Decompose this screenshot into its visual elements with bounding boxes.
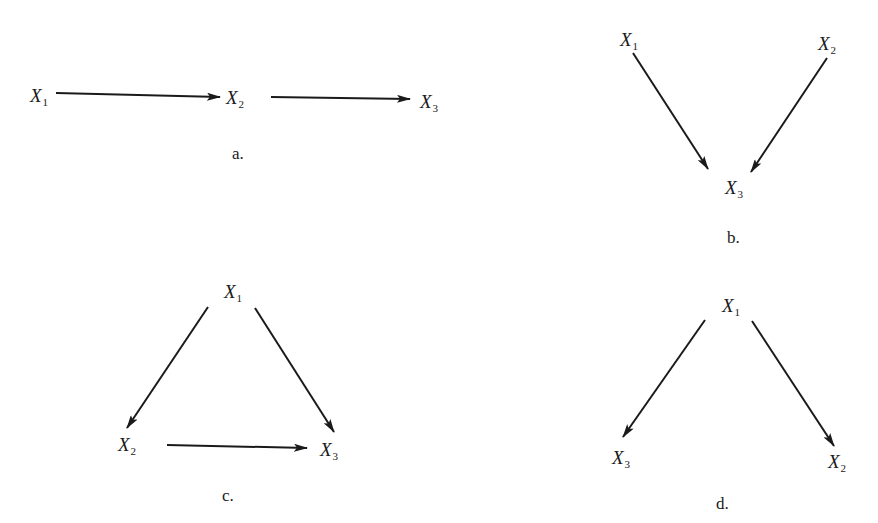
node-subscript: 1 [237,292,243,304]
edge-b-x1-to-x3 [633,53,708,169]
node-variable: X [818,33,830,54]
edge-a-x2-to-x3 [271,97,410,99]
edge-c-x1-to-x3 [255,308,334,432]
node-subscript: 1 [43,96,49,108]
caption-c: c. [222,487,234,504]
node-subscript: 3 [738,188,744,200]
node-subscript: 2 [239,98,245,110]
node-subscript: 1 [633,40,639,52]
node-variable: X [420,91,432,112]
node-c-x3: X3 [320,440,338,462]
node-b-x1: X1 [620,30,638,52]
diagram-canvas: X1 X2 X3 a. X1 X2 X3 b. X1 X2 X3 c. X1 X… [0,0,878,523]
node-subscript: 1 [735,306,741,318]
node-subscript: 2 [131,445,137,457]
node-subscript: 3 [625,458,631,470]
node-b-x2: X2 [818,34,836,56]
node-variable: X [118,434,130,455]
node-a-x1: X1 [30,86,48,108]
node-variable: X [30,85,42,106]
node-variable: X [620,29,632,50]
node-a-x3: X3 [420,92,438,114]
edge-a-x1-to-x2 [56,93,220,97]
node-b-x3: X3 [725,178,743,200]
edge-c-x1-to-x2 [127,307,208,428]
node-variable: X [725,177,737,198]
node-c-x2: X2 [118,435,136,457]
node-c-x1: X1 [224,282,242,304]
node-variable: X [320,439,332,460]
node-variable: X [828,451,840,472]
node-subscript: 2 [831,44,837,56]
node-subscript: 2 [841,462,847,474]
node-d-x3: X3 [612,448,630,470]
caption-b: b. [727,229,740,246]
node-d-x1: X1 [722,296,740,318]
node-variable: X [224,281,236,302]
node-subscript: 3 [333,450,339,462]
node-variable: X [612,447,624,468]
edge-b-x2-to-x3 [751,58,827,172]
caption-a: a. [232,145,244,162]
node-a-x2: X2 [226,88,244,110]
edge-c-x2-to-x3 [167,445,307,448]
node-variable: X [722,295,734,316]
node-d-x2: X2 [828,452,846,474]
node-subscript: 3 [433,102,439,114]
edge-d-x1-to-x3 [623,320,705,437]
caption-d: d. [716,495,729,512]
edge-d-x1-to-x2 [752,321,834,446]
node-variable: X [226,87,238,108]
